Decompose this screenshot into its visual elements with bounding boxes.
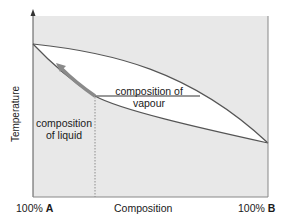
- liquid-annotation-line1: composition: [35, 117, 93, 129]
- y-axis-label: Temperature: [10, 74, 21, 154]
- liquid-annotation-line2: of liquid: [35, 129, 93, 141]
- y-axis-arrow-icon: [31, 9, 36, 16]
- x-left-label: 100% A: [16, 202, 53, 214]
- vapour-annotation-line1: composition of: [108, 85, 190, 97]
- x-right-component: B: [268, 202, 276, 214]
- x-right-label: 100% B: [238, 202, 275, 214]
- x-left-prefix: 100%: [16, 202, 46, 214]
- x-left-component: A: [46, 202, 54, 214]
- x-axis-label: Composition: [114, 202, 172, 214]
- vapour-annotation: composition of vapour: [108, 85, 190, 109]
- vapour-annotation-line2: vapour: [108, 97, 190, 109]
- phase-diagram: [0, 0, 283, 222]
- liquid-annotation: composition of liquid: [35, 117, 93, 141]
- x-right-prefix: 100%: [238, 202, 268, 214]
